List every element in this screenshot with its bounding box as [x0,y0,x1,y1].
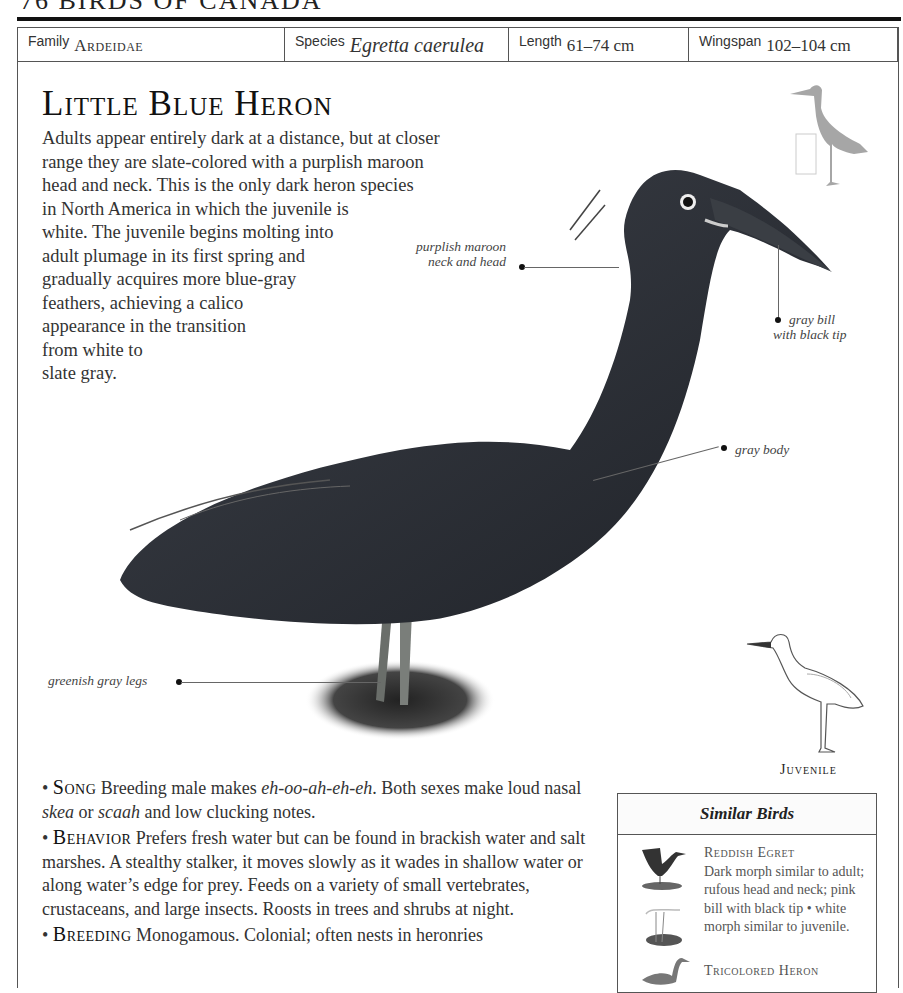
call-text: scaah [98,802,140,822]
behavior-section: • Behavior Prefers fresh water but can b… [42,826,612,921]
running-head: 76 BIRDS OF CANADA [20,0,323,16]
breeding-section: • Breeding Monogamous. Colonial; often n… [42,923,612,948]
reddish-egret-dark-icon [640,846,690,892]
annotation-leader [181,682,381,683]
species-header-table: Family Ardeidae Species Egretta caerulea… [17,27,898,62]
juvenile-heron-drawing [745,630,875,760]
species-cell: Species Egretta caerulea [285,28,509,61]
wingspan-label: Wingspan [699,33,761,49]
wingspan-cell: Wingspan 102–104 cm [689,28,897,61]
intro-line: Adults appear entirely dark at a distanc… [42,127,602,151]
annotation-leader [524,267,619,268]
song-section: • Song Breeding male makes eh-oo-ah-eh-e… [42,776,612,824]
similar-bird-item: Tricolored Heron [704,962,874,981]
reddish-egret-white-icon [640,904,690,950]
call-text: eh-oo-ah-eh-eh [261,778,372,798]
call-text: skea [42,802,74,822]
wingspan-value: 102–104 cm [766,36,851,56]
behavior-heading: Behavior [53,826,132,848]
similar-bird-name: Tricolored Heron [704,962,874,981]
breeding-heading: Breeding [53,923,132,945]
similar-birds-title: Similar Birds [618,794,876,835]
detail-sections: • Song Breeding male makes eh-oo-ah-eh-e… [42,776,612,950]
annotation-legs: greenish gray legs [48,673,147,688]
annotation-bill: gray bill with black tip [773,312,847,342]
top-rule [17,17,901,21]
similar-bird-item: Reddish Egret Dark morph similar to adul… [704,844,874,937]
species-value: Egretta caerulea [350,34,484,57]
similar-bird-name: Reddish Egret [704,844,874,863]
family-value: Ardeidae [74,36,143,56]
juvenile-caption: Juvenile [780,762,837,778]
family-label: Family [28,33,69,49]
annotation-neck: purplish maroon neck and head [416,239,506,269]
similar-bird-desc: Dark morph similar to adult; rufous head… [704,864,864,935]
page-title: Little Blue Heron [42,86,333,121]
tricolored-heron-icon [640,954,690,990]
song-heading: Song [53,776,96,798]
annotation-body: gray body [735,442,789,457]
species-label: Species [295,33,345,49]
annotation-leader [778,245,779,318]
length-label: Length [519,33,562,49]
length-value: 61–74 cm [567,36,635,56]
length-cell: Length 61–74 cm [509,28,689,61]
annotation-dot [721,445,727,451]
similar-birds-box: Similar Birds Reddish Egret Dark morph s… [617,793,877,993]
family-cell: Family Ardeidae [18,28,285,61]
